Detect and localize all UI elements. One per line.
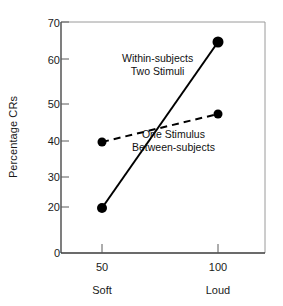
annotation-between-subjects-line2: Between-subjects <box>132 141 215 154</box>
data-point-between-loud <box>214 110 223 119</box>
annotation-within-subjects-line1: Within-subjects <box>122 52 193 65</box>
data-point-between-soft <box>98 138 107 147</box>
annotation-between-subjects-line1: One Stimulus <box>132 128 215 141</box>
annotation-within-subjects: Within-subjects Two Stimuli <box>122 52 193 78</box>
data-point-within-soft <box>97 203 107 213</box>
annotation-within-subjects-line2: Two Stimuli <box>122 65 193 78</box>
chart-figure: Percentage CRs 70 60 50 40 30 20 0 50 10… <box>0 0 283 306</box>
annotation-between-subjects: One Stimulus Between-subjects <box>132 128 215 154</box>
data-point-within-loud <box>213 37 224 48</box>
